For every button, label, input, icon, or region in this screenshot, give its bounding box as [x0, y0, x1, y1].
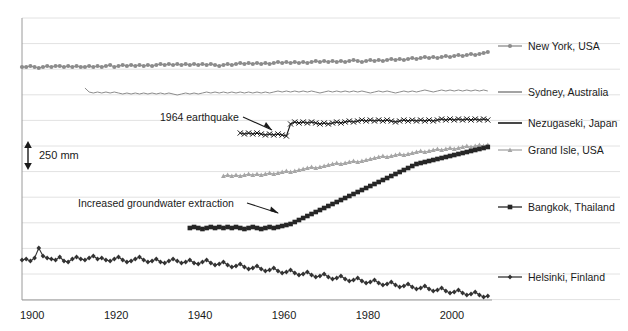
data-point-marker: [418, 148, 423, 153]
data-point-marker: [381, 282, 386, 287]
legend-item-new-york[interactable]: New York, USA: [497, 40, 600, 52]
data-point-marker: [343, 196, 348, 201]
scale-bar-label: 250 mm: [39, 150, 79, 161]
data-point-marker: [380, 153, 385, 158]
data-point-marker: [393, 58, 397, 62]
data-point-marker: [251, 225, 256, 230]
data-point-marker: [477, 52, 481, 56]
legend-item-nezugaseki[interactable]: Nezugaseki, Japan: [497, 117, 617, 129]
data-point-marker: [225, 225, 230, 230]
legend-swatch-line-icon: [497, 117, 523, 129]
data-point-marker: [196, 63, 200, 67]
data-point-marker: [440, 55, 444, 59]
data-point-marker: [234, 172, 239, 177]
data-point-marker: [410, 164, 415, 169]
data-point-marker: [179, 260, 184, 265]
legend-item-helsinki[interactable]: Helsinki, Finland: [497, 271, 605, 283]
data-point-marker: [225, 172, 230, 177]
data-point-marker: [133, 256, 138, 261]
data-point-marker: [297, 272, 302, 277]
data-point-marker: [469, 291, 474, 296]
data-point-marker: [508, 205, 513, 210]
data-point-marker: [397, 170, 402, 175]
data-point-marker: [213, 262, 218, 267]
data-point-marker: [116, 64, 120, 68]
scale-bar-arrow-up: [24, 141, 32, 148]
legend-item-sydney[interactable]: Sydney, Australia: [497, 86, 608, 98]
series-sydney: [85, 88, 488, 95]
data-point-marker: [24, 256, 29, 261]
data-point-marker: [419, 56, 423, 60]
data-point-marker: [364, 186, 369, 191]
data-point-marker: [322, 59, 326, 63]
data-point-marker: [508, 44, 512, 48]
data-point-marker: [301, 60, 305, 64]
data-point-marker: [230, 264, 235, 269]
data-point-marker: [45, 255, 50, 260]
x-tick-label: 1980: [356, 310, 380, 321]
data-point-marker: [217, 64, 221, 68]
data-point-marker: [377, 58, 381, 62]
data-point-marker: [473, 148, 478, 153]
data-point-marker: [481, 146, 486, 151]
data-point-marker: [397, 284, 402, 289]
annotation-earthquake: 1964 earthquake: [160, 112, 239, 123]
data-point-marker: [460, 151, 465, 156]
data-point-marker: [339, 59, 343, 63]
data-point-marker: [355, 190, 360, 195]
data-point-marker: [448, 290, 453, 295]
data-point-marker: [200, 227, 205, 232]
data-point-marker: [221, 226, 226, 231]
data-point-marker: [385, 281, 390, 286]
data-point-marker: [66, 64, 70, 68]
data-point-marker: [217, 225, 222, 230]
data-point-marker: [347, 278, 352, 283]
data-point-marker: [255, 226, 260, 231]
data-point-marker: [167, 258, 172, 263]
x-tick-label: 2000: [440, 310, 464, 321]
data-point-marker: [381, 59, 385, 63]
data-point-marker: [284, 60, 288, 64]
data-point-marker: [247, 61, 251, 65]
data-point-marker: [79, 65, 83, 69]
data-point-marker: [452, 54, 456, 58]
data-point-marker: [452, 289, 457, 294]
data-point-marker: [267, 62, 271, 66]
data-point-marker: [435, 287, 440, 292]
data-point-marker: [234, 263, 239, 268]
data-point-marker: [444, 54, 448, 58]
data-point-marker: [465, 150, 470, 155]
data-point-marker: [100, 65, 104, 69]
data-point-marker: [183, 259, 188, 264]
data-point-marker: [53, 64, 57, 68]
series-line: [85, 88, 488, 95]
data-point-marker: [28, 64, 32, 68]
data-point-marker: [196, 226, 201, 231]
data-point-marker: [477, 147, 482, 152]
data-point-marker: [360, 60, 364, 64]
data-point-marker: [83, 65, 87, 69]
series-grand-isle: [221, 142, 490, 178]
legend-item-grand-isle[interactable]: Grand Isle, USA: [497, 144, 604, 156]
data-point-marker: [196, 261, 201, 266]
legend-item-bangkok[interactable]: Bangkok, Thailand: [497, 201, 615, 213]
data-point-marker: [129, 258, 134, 263]
data-point-marker: [402, 283, 407, 288]
data-point-marker: [477, 142, 482, 147]
data-point-marker: [251, 62, 255, 66]
data-point-marker: [309, 212, 314, 217]
data-point-marker: [351, 192, 356, 197]
data-point-marker: [49, 256, 54, 261]
legend-swatch-diamond-icon: [497, 271, 523, 283]
data-point-marker: [162, 260, 167, 265]
data-point-marker: [465, 292, 470, 297]
data-point-marker: [125, 64, 129, 68]
data-point-marker: [435, 146, 440, 151]
data-point-marker: [288, 61, 292, 65]
data-point-marker: [351, 58, 355, 62]
data-point-marker: [217, 261, 222, 266]
data-point-marker: [36, 245, 41, 250]
data-point-marker: [309, 60, 313, 64]
data-point-marker: [20, 65, 24, 69]
data-point-marker: [364, 59, 368, 63]
